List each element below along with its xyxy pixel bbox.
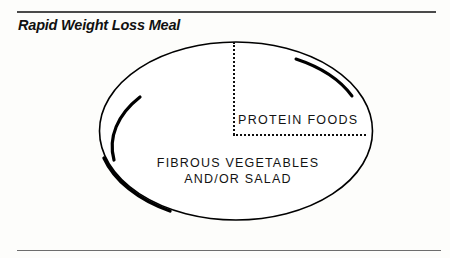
- label-protein-foods: PROTEIN FOODS: [238, 113, 358, 127]
- divider-vertical-dotted: [233, 42, 235, 135]
- rule-bottom-divider: [17, 250, 441, 251]
- label-veg-line-2: AND/OR SALAD: [138, 171, 338, 187]
- page-canvas: Rapid Weight Loss Meal: [0, 0, 450, 258]
- label-fibrous-vegetables: FIBROUS VEGETABLES AND/OR SALAD: [138, 155, 338, 187]
- plate-ellipse-graphic: [0, 0, 450, 258]
- meal-plate-diagram: [0, 0, 450, 258]
- label-veg-line-1: FIBROUS VEGETABLES: [138, 155, 338, 171]
- divider-horizontal-dotted: [233, 134, 366, 136]
